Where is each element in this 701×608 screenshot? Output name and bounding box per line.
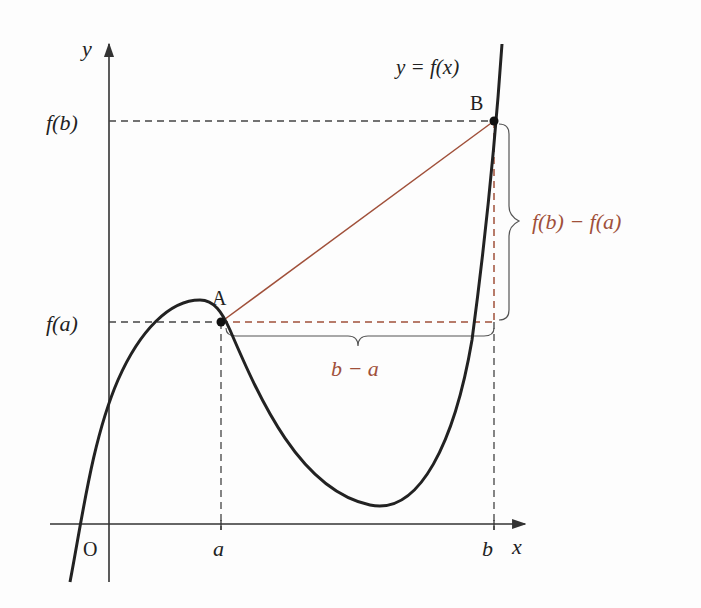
function-curve	[70, 44, 502, 582]
guide-lines	[109, 121, 494, 530]
fa-label: f(a)	[46, 311, 78, 336]
b-tick-label: b	[482, 536, 493, 561]
secant-line	[221, 121, 494, 322]
run-brace	[226, 328, 494, 346]
diagram-canvas: y x O a b f(b) f(a) A B y = f(x) f(b) − …	[0, 0, 701, 608]
point-b-label: B	[470, 92, 483, 114]
point-a-marker	[217, 318, 226, 327]
curve-label: y = f(x)	[394, 55, 459, 79]
x-axis-label: x	[511, 534, 522, 559]
fb-label: f(b)	[46, 110, 78, 135]
a-tick-label: a	[213, 536, 224, 561]
rise-brace	[499, 124, 519, 320]
rise-label: f(b) − f(a)	[532, 209, 621, 234]
run-label: b − a	[331, 356, 379, 381]
origin-label: O	[83, 538, 97, 560]
y-axis-label: y	[80, 36, 92, 61]
point-a-label: A	[212, 287, 227, 309]
point-b-marker	[490, 117, 499, 126]
